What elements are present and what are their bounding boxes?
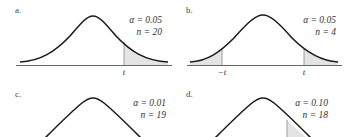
n-value: n = 18 <box>295 109 328 121</box>
alpha-value: α = 0.05 <box>129 14 162 26</box>
panel-d: d. α = 0.10 n = 18 <box>174 85 348 137</box>
panel-label: a. <box>15 5 21 15</box>
n-value: n = 4 <box>303 26 336 38</box>
panel-label: d. <box>186 89 193 99</box>
tick-neg-t: −t <box>218 67 227 77</box>
tick-t: t <box>303 67 306 77</box>
alpha-value: α = 0.01 <box>133 97 166 109</box>
panel-b: b. α = 0.05 n = 4 −t t <box>174 0 348 70</box>
panel-label: c. <box>15 89 21 99</box>
alpha-value: α = 0.10 <box>295 97 328 109</box>
stat-block: α = 0.01 n = 19 <box>133 97 166 121</box>
n-value: n = 19 <box>133 109 166 121</box>
alpha-value: α = 0.05 <box>303 14 336 26</box>
stat-block: α = 0.05 n = 4 <box>303 14 336 38</box>
tick-t: t <box>123 67 126 77</box>
panel-c: c. α = 0.01 n = 19 <box>0 85 174 137</box>
stat-block: α = 0.10 n = 18 <box>295 97 328 121</box>
panel-a: a. α = 0.05 n = 20 t <box>0 0 174 70</box>
n-value: n = 20 <box>129 26 162 38</box>
stat-block: α = 0.05 n = 20 <box>129 14 162 38</box>
panel-label: b. <box>186 5 193 15</box>
